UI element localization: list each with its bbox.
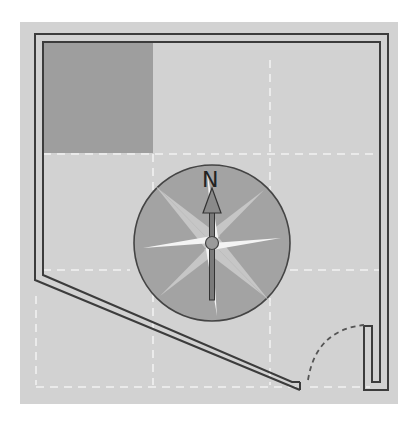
shaded-room	[43, 42, 153, 153]
compass-hub	[206, 237, 219, 250]
north-label: N	[202, 167, 218, 192]
compass-needle-shaft	[210, 212, 215, 300]
floor-plan-svg: N	[0, 0, 420, 425]
compass-rose: N	[134, 165, 290, 321]
floor-plan-diagram: N	[0, 0, 420, 425]
